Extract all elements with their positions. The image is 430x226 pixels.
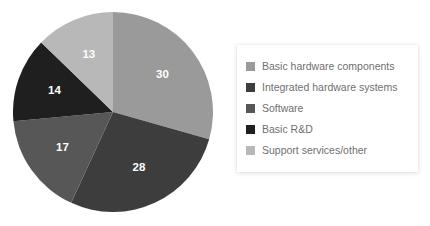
legend-swatch-icon [246, 146, 255, 155]
legend-item-label: Support services/other [262, 145, 367, 156]
legend-item[interactable]: Integrated hardware systems [246, 78, 408, 97]
pie-slice-value-label: 30 [156, 68, 169, 80]
legend-item-label: Software [262, 103, 303, 114]
legend: Basic hardware componentsIntegrated hard… [237, 45, 418, 172]
pie-chart: 3028171413 Basic hardware componentsInte… [0, 0, 430, 226]
legend-swatch-icon [246, 83, 255, 92]
pie-svg: 3028171413 [13, 12, 213, 212]
legend-item[interactable]: Basic R&D [246, 120, 408, 139]
pie-slice-group [13, 12, 213, 212]
legend-item-label: Basic R&D [262, 124, 313, 135]
legend-item-label: Integrated hardware systems [262, 82, 397, 93]
legend-list: Basic hardware componentsIntegrated hard… [246, 57, 408, 160]
legend-swatch-icon [246, 125, 255, 134]
pie-plot-area: 3028171413 [13, 12, 213, 212]
pie-slice-value-label: 28 [133, 161, 146, 173]
pie-slice-value-label: 13 [82, 48, 95, 60]
legend-item-label: Basic hardware components [262, 61, 395, 72]
legend-item[interactable]: Support services/other [246, 141, 408, 160]
pie-slice-value-label: 17 [56, 141, 69, 153]
legend-swatch-icon [246, 62, 255, 71]
legend-swatch-icon [246, 104, 255, 113]
pie-slice-value-label: 14 [48, 84, 61, 96]
legend-item[interactable]: Software [246, 99, 408, 118]
legend-item[interactable]: Basic hardware components [246, 57, 408, 76]
